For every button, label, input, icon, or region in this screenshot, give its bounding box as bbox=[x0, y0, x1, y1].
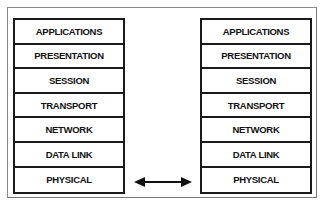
right-layer-data-link: DATA LINK bbox=[202, 143, 310, 168]
right-layer-physical: PHYSICAL bbox=[202, 168, 310, 193]
right-layer-applications: APPLICATIONS bbox=[202, 20, 310, 45]
left-layer-physical: PHYSICAL bbox=[15, 168, 123, 193]
right-layer-transport: TRANSPORT bbox=[202, 94, 310, 119]
left-osi-stack: APPLICATIONS PRESENTATION SESSION TRANSP… bbox=[13, 18, 125, 194]
left-layer-network: NETWORK bbox=[15, 118, 123, 143]
double-arrow-icon bbox=[134, 175, 192, 189]
right-layer-presentation: PRESENTATION bbox=[202, 45, 310, 70]
left-layer-presentation: PRESENTATION bbox=[15, 45, 123, 70]
left-layer-applications: APPLICATIONS bbox=[15, 20, 123, 45]
left-layer-transport: TRANSPORT bbox=[15, 94, 123, 119]
right-osi-stack: APPLICATIONS PRESENTATION SESSION TRANSP… bbox=[200, 18, 312, 194]
left-layer-data-link: DATA LINK bbox=[15, 143, 123, 168]
right-layer-session: SESSION bbox=[202, 69, 310, 94]
right-layer-network: NETWORK bbox=[202, 118, 310, 143]
left-layer-session: SESSION bbox=[15, 69, 123, 94]
